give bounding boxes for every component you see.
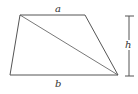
trapezoid-diagram: a h b xyxy=(0,0,138,94)
label-b: b xyxy=(55,78,61,89)
trapezoid-shape xyxy=(10,15,118,75)
label-h: h xyxy=(125,39,131,50)
label-a: a xyxy=(55,3,61,14)
diagonal-line xyxy=(20,15,118,75)
